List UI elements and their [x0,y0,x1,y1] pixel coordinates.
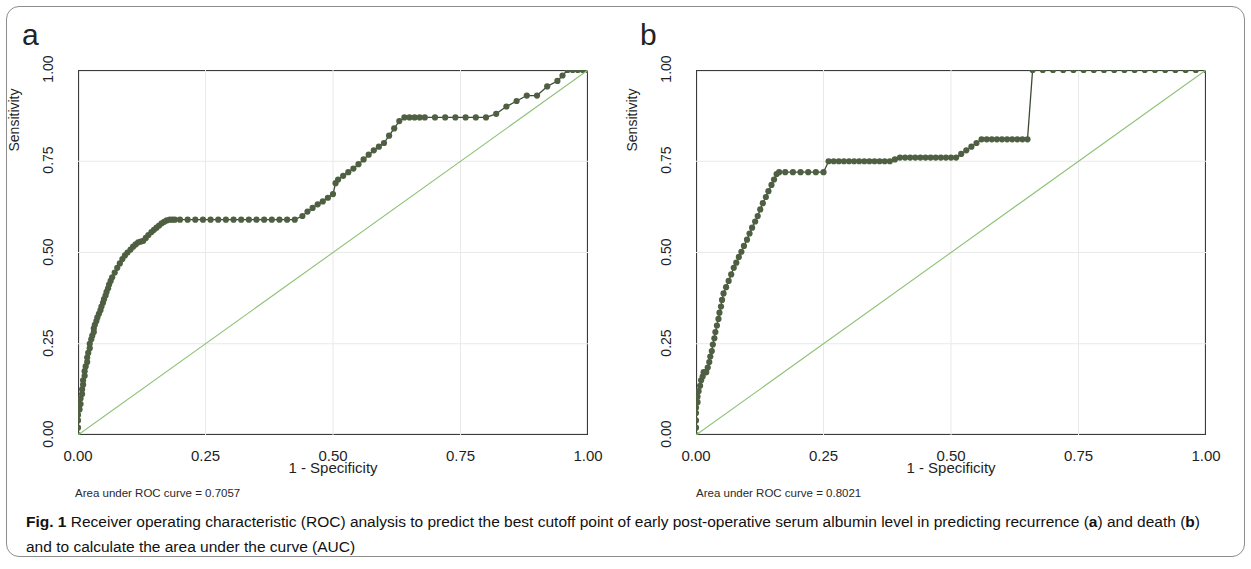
panel-a-auc-label: Area under ROC curve = 0.7057 [75,487,240,499]
figure-number: Fig. 1 [26,513,66,530]
x-tick-label: 0.00 [666,447,726,464]
panel-b-y-axis-label: Sensitivity [624,60,640,180]
x-tick-label: 1.00 [1176,447,1236,464]
x-tick-label: 0.50 [921,447,981,464]
y-tick-label: 0.25 [658,321,674,365]
x-tick-label: 0.75 [431,447,491,464]
x-tick-label: 0.25 [794,447,854,464]
panel-b: b Sensitivity 1 - Specificity Area under… [618,0,1243,500]
caption-part-1: Receiver operating characteristic (ROC) … [66,513,1088,530]
panel-a-plot-area [78,70,588,435]
y-tick-label: 0.75 [658,138,674,182]
x-tick-label: 0.00 [48,447,108,464]
x-tick-label: 0.75 [1049,447,1109,464]
panel-b-chart-svg [696,70,1206,435]
y-tick-label: 1.00 [658,47,674,91]
caption-ref-b: b [1185,513,1194,530]
x-tick-label: 1.00 [558,447,618,464]
y-tick-label: 0.50 [40,230,56,274]
figure-caption: Fig. 1 Receiver operating characteristic… [26,509,1222,559]
figure-root: a Sensitivity 1 - Specificity Area under… [0,0,1251,569]
caption-part-2: ) and death ( [1097,513,1185,530]
x-tick-label: 0.50 [303,447,363,464]
panel-a-y-axis-label: Sensitivity [6,60,22,180]
panel-b-plot-area [696,70,1206,435]
panel-a-chart-svg [78,70,588,435]
y-tick-label: 0.50 [658,230,674,274]
panel-b-auc-label: Area under ROC curve = 0.8021 [696,487,861,499]
x-tick-label: 0.25 [176,447,236,464]
y-tick-label: 0.75 [40,138,56,182]
panel-b-letter: b [640,20,657,50]
y-tick-label: 1.00 [40,47,56,91]
y-tick-label: 0.25 [40,321,56,365]
panel-a-letter: a [22,20,39,50]
panel-a: a Sensitivity 1 - Specificity Area under… [0,0,625,500]
